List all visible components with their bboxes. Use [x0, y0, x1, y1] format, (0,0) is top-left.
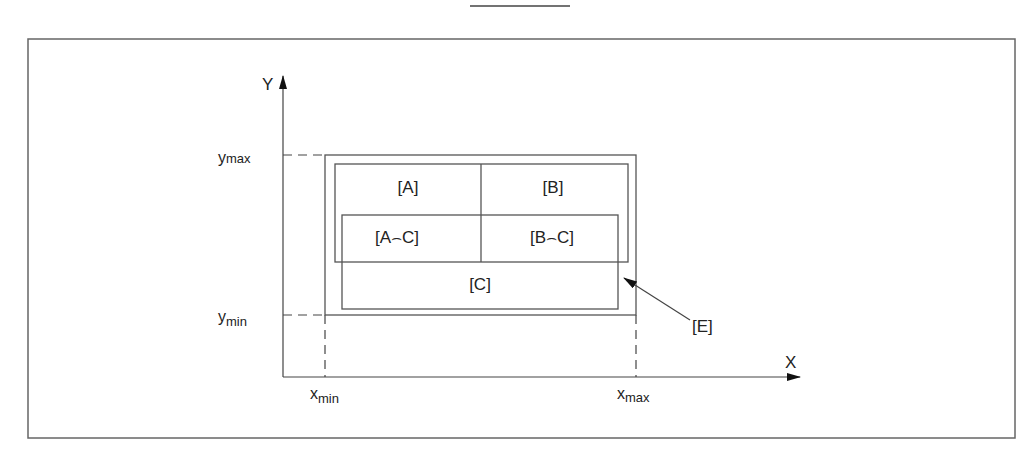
x-axis: X — [283, 353, 800, 377]
x-axis-label: X — [785, 353, 796, 372]
ymax-label: ymax — [218, 149, 251, 166]
region-a-label: [A] — [398, 178, 419, 197]
xmin-label: xmin — [310, 385, 339, 406]
diagram-canvas: Y X ymax ymin xmin xmax [A] [B] [A⌢C] [B… — [0, 0, 1035, 472]
y-axis-label: Y — [262, 75, 273, 94]
callout-e-label: [E] — [692, 317, 713, 336]
guide-lines — [283, 155, 636, 377]
xmax-label: xmax — [617, 385, 650, 405]
region-ac-label: [A⌢C] — [375, 228, 419, 247]
region-bc-label: [B⌢C] — [530, 228, 574, 247]
callout-e: [E] — [624, 278, 713, 336]
region-b-label: [B] — [543, 178, 564, 197]
y-axis: Y — [262, 75, 283, 377]
region-c-label: [C] — [469, 275, 491, 294]
figure-frame — [28, 39, 1015, 438]
ymin-label: ymin — [218, 308, 247, 329]
